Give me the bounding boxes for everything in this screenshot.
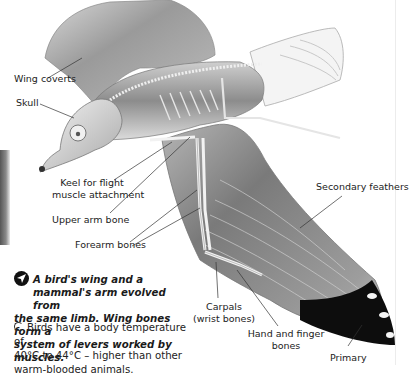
- temperature-note: Birds have a body temperature of 40°C to…: [14, 321, 194, 377]
- label-secondary-feathers: Secondary feathers: [316, 181, 409, 193]
- circle-bullet-icon: [14, 322, 23, 331]
- label-carpals-line1: Carpals: [188, 301, 260, 313]
- fact-text-2: mammal's arm evolved from: [14, 286, 194, 312]
- note-line-1: Birds have a body temperature of: [14, 321, 194, 349]
- label-primary: Primary: [330, 352, 367, 364]
- fact-text-1: A bird's wing and a: [33, 274, 143, 285]
- label-hand-finger-bones: Hand and finger bones: [246, 328, 326, 352]
- label-carpals: Carpals (wrist bones): [188, 301, 260, 325]
- label-keel-line1: Keel for flight: [52, 177, 132, 189]
- arrow-pointer-icon: [14, 271, 29, 286]
- label-carpals-line2: (wrist bones): [188, 313, 260, 325]
- label-forearm-bones: Forearm bones: [75, 239, 146, 251]
- label-keel-line2: muscle attachment: [52, 189, 132, 201]
- label-upper-arm-bone: Upper arm bone: [52, 214, 129, 226]
- tail-feathers: [250, 28, 343, 106]
- label-hand-line2: bones: [246, 340, 326, 352]
- label-skull: Skull: [16, 97, 39, 109]
- label-hand-line1: Hand and finger: [246, 328, 326, 340]
- note-text-3: warm-blooded animals.: [14, 363, 194, 377]
- label-keel: Keel for flight muscle attachment: [52, 177, 132, 201]
- note-text-1: Birds have a body temperature of: [14, 322, 186, 347]
- label-wing-coverts: Wing coverts: [14, 73, 76, 85]
- note-text-2: 40°C to 44°C – higher than other: [14, 349, 194, 363]
- fact-line-1: A bird's wing and a: [14, 271, 194, 286]
